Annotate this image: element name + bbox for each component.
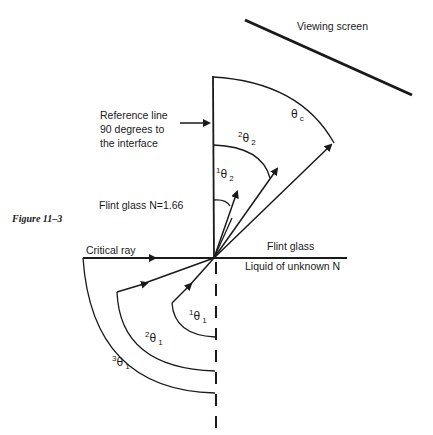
theta-subscript: 2 [229,174,233,183]
liquid-label: Liquid of unknown N [245,260,340,273]
flint-glass-label: Flint glass [267,240,314,253]
theta-symbol: θ [242,131,249,145]
viewing-screen-label: Viewing screen [297,20,368,33]
theta-c-arc [213,77,334,143]
critical-ray-label: Critical ray [86,244,136,257]
refraction-diagram [0,0,433,435]
incident-ray-2 [117,283,147,292]
theta1-1-label: 1θ1 [189,308,207,325]
reference-normal-line [213,76,214,258]
theta-subscript: c [300,114,304,123]
flint-glass-index-label: Flint glass N=1.66 [99,199,183,212]
theta1-2-arc [214,200,230,206]
theta-c-label: θc [291,107,304,123]
theta1-2-label: 1θ2 [216,166,234,183]
theta-subscript: 1 [158,338,162,347]
theta-subscript: 1 [125,362,129,371]
theta-subscript: 1 [202,316,206,325]
reference-line-label-1: Reference line [100,109,168,122]
reference-line-label-3: the interface [100,137,158,150]
reference-line-label-2: 90 degrees to [100,123,164,136]
theta-symbol: θ [220,167,227,181]
theta2-2-label: 2θ2 [238,130,256,147]
theta-symbol: θ [291,107,298,121]
incident-ray-1 [172,284,191,303]
theta2-1-label: 2θ1 [145,330,163,347]
theta-symbol: θ [116,355,123,369]
theta-symbol: θ [149,331,156,345]
theta-symbol: θ [193,309,200,323]
figure-caption: Figure 11–3 [12,213,62,224]
theta3-1-label: 3θ1 [112,354,130,371]
theta-subscript: 2 [251,138,255,147]
theta2-1-arc [117,292,215,371]
refracted-ray-extra [214,218,232,258]
